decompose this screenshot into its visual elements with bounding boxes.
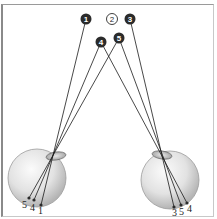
object-point-1: 1 <box>81 14 92 25</box>
svg-text:3: 3 <box>128 15 133 24</box>
left-retina-label-4: 4 <box>30 202 35 213</box>
svg-text:4: 4 <box>99 38 104 47</box>
right-eyeball <box>141 150 199 209</box>
object-point-5: 5 <box>114 33 125 44</box>
object-point-4: 4 <box>96 37 107 48</box>
svg-text:2: 2 <box>110 15 115 24</box>
left-retina-label-5: 5 <box>22 199 27 210</box>
left-eyeball <box>8 149 66 207</box>
svg-text:5: 5 <box>117 34 122 43</box>
right-retina-label-5: 5 <box>179 206 184 217</box>
left-retina-label-1: 1 <box>38 205 43 216</box>
svg-text:1: 1 <box>84 15 89 24</box>
object-point-2: 2 <box>107 14 118 25</box>
right-retina-label-3: 3 <box>172 207 177 218</box>
object-point-3: 3 <box>125 14 136 25</box>
binocular-vision-diagram: 5 4 1 3 5 4 1 2 3 4 5 <box>0 0 217 219</box>
right-retina-label-4: 4 <box>187 203 192 214</box>
